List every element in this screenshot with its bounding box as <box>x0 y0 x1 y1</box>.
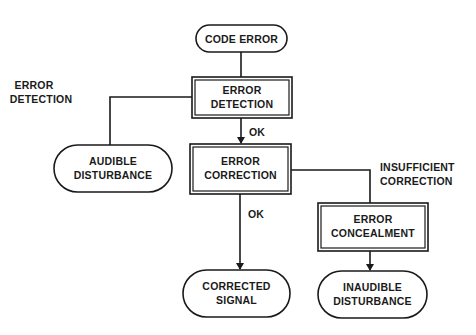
annotation-insufficient-correction-line1: INSUFFICIENT <box>380 161 455 173</box>
edge-correction-to-concealment <box>291 170 370 203</box>
node-code-error-label: CODE ERROR <box>205 33 278 45</box>
node-corrected-signal: CORRECTED SIGNAL <box>183 270 290 317</box>
annotation-insufficient-correction-line2: CORRECTION <box>380 175 453 187</box>
annotation-error-detection-line2: DETECTION <box>10 93 72 105</box>
node-error-detection-line2: DETECTION <box>211 98 273 110</box>
node-error-detection-line1: ERROR <box>223 84 262 96</box>
edge-label-ok-detection: OK <box>249 126 265 138</box>
node-corrected-signal-line2: SIGNAL <box>216 294 257 306</box>
node-error-concealment: ERROR CONCEALMENT <box>318 203 428 251</box>
node-error-correction: ERROR CORRECTION <box>190 144 291 194</box>
node-inaudible-disturbance-line2: DISTURBANCE <box>333 295 412 307</box>
node-error-concealment-line2: CONCEALMENT <box>331 227 415 239</box>
node-audible-disturbance-line1: AUDIBLE <box>89 155 137 167</box>
node-inaudible-disturbance: INAUDIBLE DISTURBANCE <box>318 271 427 318</box>
node-audible-disturbance: AUDIBLE DISTURBANCE <box>54 145 172 192</box>
node-corrected-signal-line1: CORRECTED <box>202 280 271 292</box>
annotation-error-detection-line1: ERROR <box>15 79 54 91</box>
edge-label-ok-correction: OK <box>248 208 264 220</box>
edge-detection-to-audible <box>110 97 192 145</box>
node-error-correction-line2: CORRECTION <box>204 169 277 181</box>
node-inaudible-disturbance-line1: INAUDIBLE <box>343 281 402 293</box>
node-error-detection: ERROR DETECTION <box>192 77 292 118</box>
flowchart: CODE ERROR ERROR DETECTION ERROR CORRECT… <box>0 0 476 335</box>
node-error-correction-line1: ERROR <box>221 155 260 167</box>
node-error-concealment-line1: ERROR <box>354 213 393 225</box>
node-audible-disturbance-line2: DISTURBANCE <box>74 169 153 181</box>
node-code-error: CODE ERROR <box>196 25 287 52</box>
